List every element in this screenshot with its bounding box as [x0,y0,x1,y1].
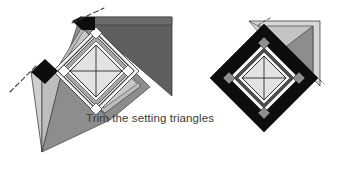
setting-triangle-lower-left-pale [31,72,42,152]
quilt-trimming-diagram [0,0,338,180]
left-panel-untrimmed-block [10,8,172,152]
right-panel-trimmed-block [210,17,324,132]
corner-block-black-top [72,17,95,30]
figure-canvas: Trim the setting triangles [0,0,338,180]
figure-caption: Trim the setting triangles [86,111,214,125]
